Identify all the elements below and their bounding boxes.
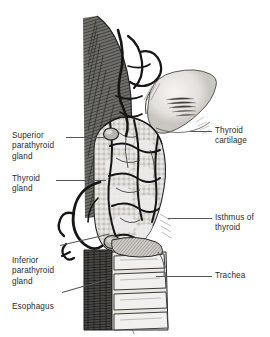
label-thyroid-gland: Thyroid gland — [12, 174, 62, 195]
label-trachea: Trachea — [215, 271, 269, 281]
leader-thyroid-gland — [56, 180, 106, 181]
trachea-shape — [112, 237, 168, 330]
label-inferior-parathyroid-gland: Inferior parathyroid gland — [12, 256, 68, 287]
label-superior-parathyroid-gland: Superior parathyroid gland — [12, 131, 68, 162]
anatomical-figure: Superior parathyroid gland Thyroid gland… — [0, 0, 270, 337]
leader-thyroid-cartilage — [190, 131, 212, 132]
label-esophagus: Esophagus — [12, 302, 68, 312]
leader-superior-parathyroid — [66, 137, 106, 138]
leader-trachea — [156, 276, 212, 277]
superior-parathyroid-nodule — [104, 128, 119, 140]
label-isthmus-of-thyroid: Isthmus of thyroid — [215, 213, 269, 234]
leader-isthmus — [168, 218, 212, 219]
label-thyroid-cartilage: Thyroid cartilage — [215, 126, 269, 147]
esophagus-shape — [84, 250, 112, 330]
